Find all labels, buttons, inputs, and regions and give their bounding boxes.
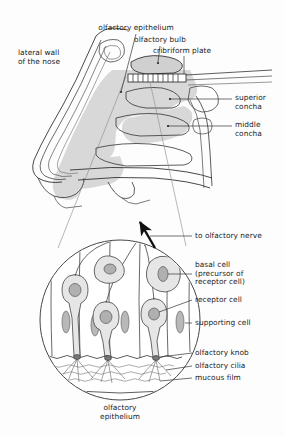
tongue-contour (122, 198, 150, 204)
label-olfactory-cilia: olfactory cilia (195, 362, 245, 371)
skull-base-line-1 (186, 70, 272, 75)
detail-circle-view (40, 210, 200, 400)
olfactory-bulb-shape (131, 56, 182, 74)
label-olfactory-bulb: olfactory bulb (120, 36, 200, 45)
leader-dot-superior-concha (169, 98, 171, 100)
skull-base-line-2 (186, 76, 272, 80)
label-lateral-wall-of-the-nose: lateral wall of the nose (18, 49, 60, 66)
label-mucous-film: mucous film (195, 374, 241, 383)
label-cribriform-plate: cribriform plate (153, 47, 211, 56)
olfactory-system-diagram: lateral wall of the nose olfactory epith… (0, 0, 284, 437)
label-supporting-cell: supporting cell (195, 319, 251, 328)
frontal-sinus-inner (104, 45, 121, 59)
cribriform-plate-band (128, 74, 186, 82)
label-to-olfactory-nerve: to olfactory nerve (195, 232, 262, 241)
skull-base-line-3 (188, 82, 272, 85)
uvula-shape (108, 182, 135, 199)
pharynx-wall-right (196, 96, 212, 186)
label-olfactory-epithelium: olfactory epithelium (93, 24, 179, 33)
label-middle-concha: middle concha (235, 121, 262, 138)
label-olfactory-knob: olfactory knob (195, 349, 249, 358)
olfactory-nerve-bundle (132, 210, 178, 246)
label-superior-concha: superior concha (235, 94, 266, 111)
label-receptor-cell: receptor cell (195, 296, 242, 305)
label-basal-cell: basal cell (precursor of receptor cell) (195, 261, 245, 287)
leader-dot-olfactory-bulb (157, 62, 159, 64)
leader-dot-olfactory-epithelium (120, 91, 122, 93)
leader-dot-middle-concha (167, 125, 169, 127)
caption-olfactory-epithelium: olfactory epithelium (70, 404, 170, 421)
